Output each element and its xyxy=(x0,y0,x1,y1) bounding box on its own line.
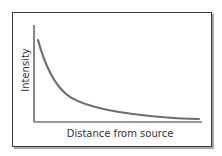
decay-curve xyxy=(38,40,199,119)
x-axis-label: Distance from source xyxy=(60,127,180,141)
y-axis-label: Intensity xyxy=(19,48,33,92)
axes xyxy=(34,25,202,122)
